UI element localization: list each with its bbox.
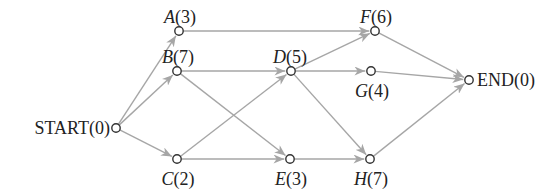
- node-c-circle-icon: [173, 155, 181, 163]
- node-d-label: D(5): [272, 47, 307, 68]
- network-graph: START(0)A(3)B(7)C(2)D(5)E(3)F(6)G(4)H(7)…: [0, 0, 559, 193]
- edge-f-to-end-arrow: [379, 33, 464, 77]
- node-duration: (0): [514, 70, 535, 91]
- node-end-circle-icon: [465, 76, 473, 84]
- node-duration: (2): [174, 169, 195, 190]
- node-g-label: G(4): [355, 81, 389, 102]
- node-start-circle-icon: [112, 124, 120, 132]
- node-duration: (5): [286, 47, 307, 68]
- node-name: END: [477, 70, 514, 90]
- node-duration: (0): [89, 118, 110, 139]
- node-a-circle-icon: [175, 27, 183, 35]
- node-d-circle-icon: [287, 67, 295, 75]
- node-name: E: [274, 169, 286, 189]
- node-a-label: A(3): [163, 7, 196, 28]
- node-f-label: F(6): [359, 7, 392, 28]
- node-name: B: [162, 47, 173, 67]
- node-name: START: [35, 118, 89, 138]
- edge-b-to-e-arrow: [180, 74, 285, 156]
- node-b-label: B(7): [162, 47, 194, 68]
- node-e-circle-icon: [286, 155, 294, 163]
- node-h-circle-icon: [366, 155, 374, 163]
- node-duration: (6): [371, 7, 392, 28]
- labels-layer: START(0)A(3)B(7)C(2)D(5)E(3)F(6)G(4)H(7)…: [35, 7, 535, 190]
- node-name: G: [355, 81, 368, 101]
- node-duration: (3): [175, 7, 196, 28]
- node-name: H: [353, 169, 368, 189]
- node-f-circle-icon: [371, 27, 379, 35]
- node-duration: (7): [173, 47, 194, 68]
- edge-start-to-c-arrow: [120, 130, 172, 157]
- node-duration: (3): [286, 169, 307, 190]
- node-b-circle-icon: [173, 67, 181, 75]
- activity-network-diagram: START(0)A(3)B(7)C(2)D(5)E(3)F(6)G(4)H(7)…: [0, 0, 559, 193]
- node-name: D: [272, 47, 286, 67]
- node-duration: (4): [368, 81, 389, 102]
- node-c-label: C(2): [161, 169, 194, 190]
- node-h-label: H(7): [353, 169, 388, 190]
- node-end-label: END(0): [477, 70, 535, 91]
- node-start-label: START(0): [35, 118, 110, 139]
- node-g-circle-icon: [367, 67, 375, 75]
- node-e-label: E(3): [274, 169, 307, 190]
- node-duration: (7): [367, 169, 388, 190]
- edge-g-to-end-arrow: [375, 71, 463, 79]
